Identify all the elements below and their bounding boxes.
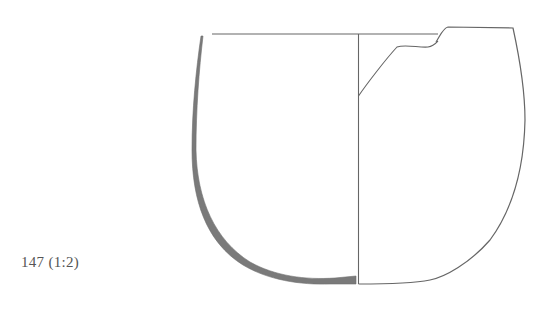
interior-break-line: [359, 41, 439, 96]
figure-caption: 147 (1:2): [21, 254, 79, 271]
exterior-outline: [359, 27, 526, 284]
vessel-drawing: [0, 0, 550, 312]
section-profile: [192, 36, 356, 284]
